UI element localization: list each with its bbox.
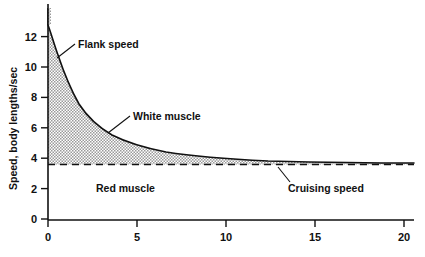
x-tick-label: 10	[220, 231, 232, 243]
y-tick-label: 4	[31, 152, 38, 164]
y-tick-label: 0	[31, 213, 37, 225]
annotation-label: Red muscle	[96, 182, 155, 194]
x-tick-label: 15	[309, 231, 321, 243]
annotation-label: Cruising speed	[288, 182, 364, 194]
y-tick-label: 2	[31, 183, 37, 195]
x-tick-label: 0	[45, 231, 51, 243]
x-tick-label: 5	[134, 231, 140, 243]
annotation-label: White muscle	[133, 110, 201, 122]
x-tick-label: 20	[398, 231, 410, 243]
y-tick-label: 10	[25, 61, 37, 73]
speed-vs-length-chart: 0 2 4 6 8 10 12 0 5 10 15 20 Speed, body…	[0, 0, 425, 257]
annotation-red-muscle: Red muscle	[96, 182, 155, 194]
y-tick-label: 12	[25, 31, 37, 43]
y-tick-label: 8	[31, 91, 37, 103]
annotation-label: Flank speed	[78, 38, 139, 50]
chart-figure: 0 2 4 6 8 10 12 0 5 10 15 20 Speed, body…	[0, 0, 425, 257]
y-axis-label: Speed, body lengths/sec	[7, 67, 19, 190]
y-tick-label: 6	[31, 122, 37, 134]
